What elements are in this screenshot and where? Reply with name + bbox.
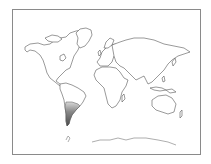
africa xyxy=(94,67,128,108)
new-guinea xyxy=(166,89,176,93)
philippines xyxy=(162,76,165,82)
arctic-islands xyxy=(45,35,62,42)
madagascar xyxy=(122,94,125,102)
uk xyxy=(98,50,101,56)
antarctic-peninsula xyxy=(66,136,70,142)
greenland xyxy=(76,28,92,48)
new-zealand xyxy=(180,110,182,118)
australia xyxy=(152,95,176,114)
world-map xyxy=(0,0,211,164)
antarctica xyxy=(92,138,176,145)
highlighted-region-argentina-chile[interactable] xyxy=(65,102,80,126)
indonesia xyxy=(150,87,166,91)
